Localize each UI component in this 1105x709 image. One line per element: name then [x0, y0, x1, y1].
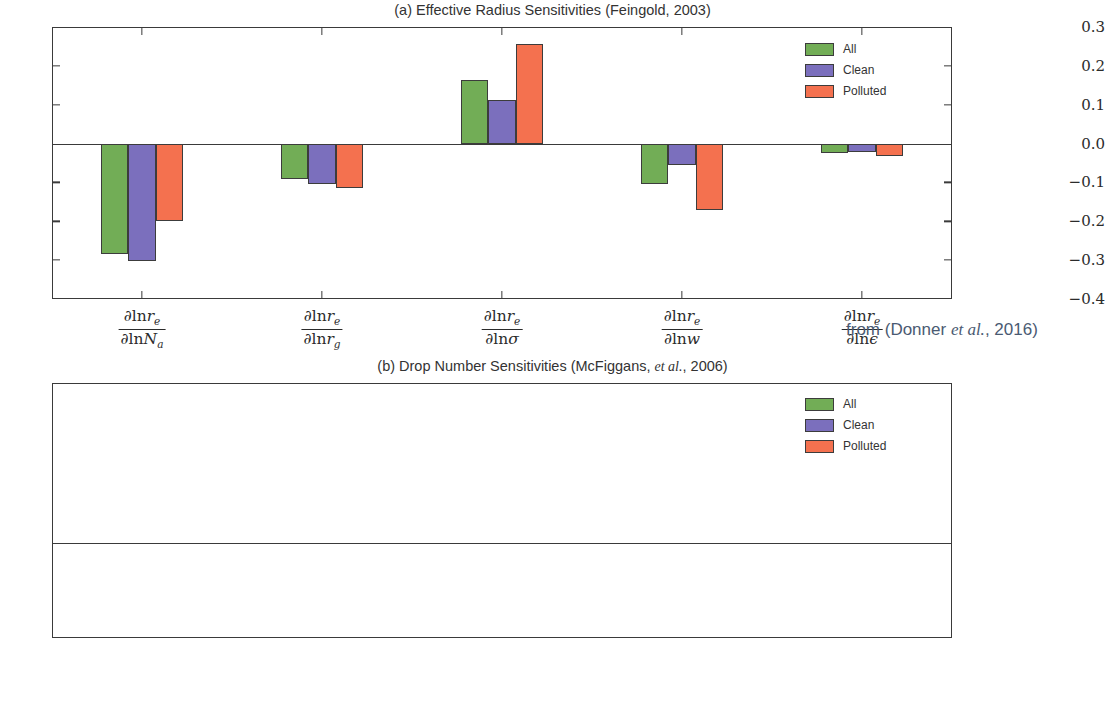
- bar-all: [101, 144, 129, 255]
- x-tick-mark: [861, 291, 862, 298]
- bar-clean: [668, 144, 696, 165]
- y-tick-mark: [944, 65, 951, 66]
- bar-all: [281, 144, 309, 179]
- bar-polluted: [696, 144, 724, 210]
- bar-all: [821, 144, 849, 154]
- panel-b-title: (b) Drop Number Sensitivities (McFiggans…: [0, 358, 1105, 375]
- y-tick-label: 0.3: [1061, 18, 1105, 36]
- panel-a-title-text: (a) Effective Radius Sensitivities (Fein…: [394, 2, 710, 18]
- panel-b-zero-line: [53, 543, 951, 545]
- panel-drop-number: (b) Drop Number Sensitivities (McFiggans…: [0, 355, 1105, 709]
- y-tick-mark: [53, 259, 60, 260]
- y-tick-label: 0.0: [1061, 135, 1105, 153]
- bar-clean: [308, 144, 336, 185]
- y-tick-mark: [53, 182, 60, 183]
- legend-item-clean[interactable]: Clean: [805, 418, 886, 432]
- y-tick-label: 0.2: [1061, 57, 1105, 75]
- bar-all: [641, 144, 669, 185]
- x-tick-mark: [321, 291, 322, 298]
- panel-a-title: (a) Effective Radius Sensitivities (Fein…: [0, 2, 1105, 18]
- bar-all: [461, 80, 489, 143]
- legend-swatch-all: [805, 398, 834, 411]
- legend-label: Polluted: [843, 84, 886, 98]
- annotation-prefix: from (Donner: [846, 320, 951, 339]
- x-tick-mark: [141, 291, 142, 298]
- y-tick-label: 0.1: [1061, 96, 1105, 114]
- bar-polluted: [876, 144, 904, 157]
- bar-polluted: [156, 144, 184, 222]
- bar-clean: [128, 144, 156, 262]
- bar-clean: [488, 100, 516, 144]
- legend-swatch-all: [805, 43, 834, 56]
- legend-item-polluted[interactable]: Polluted: [805, 439, 886, 453]
- x-tick-mark: [681, 291, 682, 298]
- y-tick-mark: [944, 182, 951, 183]
- panel-b-title-text-2: , 2006): [683, 358, 728, 374]
- figure-root: (a) Effective Radius Sensitivities (Fein…: [0, 0, 1105, 709]
- y-tick-label: −0.2: [1061, 212, 1105, 230]
- bar-polluted: [336, 144, 364, 189]
- panel-a-legend: AllCleanPolluted: [805, 42, 886, 98]
- legend-label: All: [843, 42, 856, 56]
- x-tick-mark: [681, 28, 682, 35]
- legend-item-all[interactable]: All: [805, 42, 886, 56]
- x-axis-fraction-label: ∂lnre∂lnw: [662, 308, 703, 348]
- annotation-suffix: , 2016): [985, 320, 1038, 339]
- y-tick-mark: [944, 104, 951, 105]
- panel-b-legend: AllCleanPolluted: [805, 397, 886, 453]
- panel-b-title-text-1: (b) Drop Number Sensitivities (McFiggans…: [377, 358, 654, 374]
- legend-label: All: [843, 397, 856, 411]
- x-tick-mark: [861, 28, 862, 35]
- legend-item-polluted[interactable]: Polluted: [805, 84, 886, 98]
- panel-b-title-et-al: et al.: [655, 359, 683, 374]
- x-axis-fraction-label: ∂lnre∂lnNa: [119, 308, 166, 351]
- x-tick-mark: [321, 28, 322, 35]
- annotation-et-al: et al.: [951, 320, 985, 339]
- legend-swatch-polluted: [805, 85, 834, 98]
- x-tick-mark: [501, 291, 502, 298]
- legend-item-clean[interactable]: Clean: [805, 63, 886, 77]
- legend-swatch-clean: [805, 419, 834, 432]
- bar-clean: [848, 144, 876, 153]
- y-tick-label: −0.1: [1061, 173, 1105, 191]
- source-annotation: from (Donner et al., 2016): [846, 320, 1038, 340]
- y-tick-mark: [944, 259, 951, 260]
- x-tick-mark: [141, 28, 142, 35]
- x-tick-mark: [501, 28, 502, 35]
- panel-effective-radius: (a) Effective Radius Sensitivities (Fein…: [0, 0, 1105, 355]
- y-tick-label: −0.3: [1061, 251, 1105, 269]
- panel-a-zero-line: [53, 144, 951, 146]
- legend-label: Polluted: [843, 439, 886, 453]
- legend-label: Clean: [843, 418, 874, 432]
- x-axis-fraction-label: ∂lnre∂lnσ: [482, 308, 523, 348]
- legend-item-all[interactable]: All: [805, 397, 886, 411]
- y-tick-mark: [53, 65, 60, 66]
- bar-polluted: [516, 44, 544, 144]
- legend-label: Clean: [843, 63, 874, 77]
- y-tick-label: −0.4: [1061, 290, 1105, 308]
- legend-swatch-polluted: [805, 440, 834, 453]
- y-tick-mark: [944, 221, 951, 222]
- legend-swatch-clean: [805, 64, 834, 77]
- y-tick-mark: [53, 104, 60, 105]
- x-axis-fraction-label: ∂lnre∂lnrg: [301, 308, 342, 351]
- y-tick-mark: [53, 221, 60, 222]
